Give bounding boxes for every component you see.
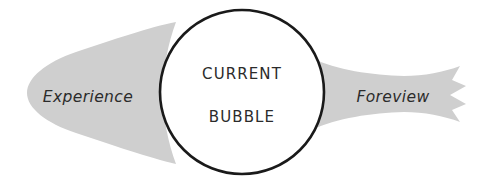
diagram-canvas: Experience Foreview CURRENT BUBBLE [0, 0, 481, 189]
bubble-label-line-1: CURRENT [202, 65, 282, 83]
bubble-label-line-2: BUBBLE [209, 108, 275, 126]
current-bubble-diagram: Experience Foreview CURRENT BUBBLE [0, 0, 481, 189]
current-bubble-circle [160, 10, 324, 174]
foreview-label: Foreview [356, 88, 429, 106]
experience-label: Experience [43, 88, 133, 106]
